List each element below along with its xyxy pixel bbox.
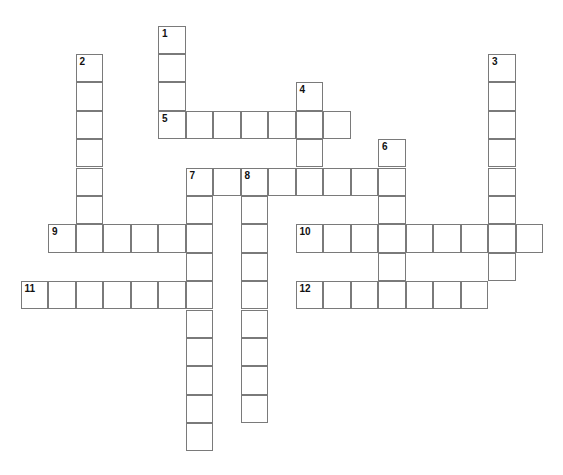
crossword-cell[interactable] <box>406 224 434 252</box>
crossword-cell[interactable] <box>461 281 489 309</box>
crossword-cell[interactable] <box>323 111 351 139</box>
crossword-cell[interactable]: 6 <box>378 139 406 167</box>
clue-number: 10 <box>300 227 311 237</box>
crossword-cell[interactable] <box>103 224 131 252</box>
crossword-cell[interactable] <box>296 139 324 167</box>
crossword-cell[interactable]: 2 <box>76 54 104 82</box>
crossword-cell[interactable] <box>241 310 269 338</box>
crossword-cell[interactable] <box>158 224 186 252</box>
crossword-cell[interactable] <box>186 111 214 139</box>
crossword-cell[interactable] <box>488 253 516 281</box>
crossword-cell[interactable] <box>76 139 104 167</box>
crossword-cell[interactable] <box>488 168 516 196</box>
crossword-cell[interactable]: 3 <box>488 54 516 82</box>
crossword-cell[interactable]: 11 <box>21 281 49 309</box>
clue-number: 9 <box>52 227 58 237</box>
crossword-cell[interactable] <box>323 281 351 309</box>
crossword-cell[interactable] <box>76 111 104 139</box>
clue-number: 8 <box>245 171 251 181</box>
crossword-cell[interactable] <box>241 366 269 394</box>
crossword-cell[interactable] <box>241 281 269 309</box>
crossword-cell[interactable] <box>488 196 516 224</box>
crossword-cell[interactable]: 9 <box>48 224 76 252</box>
crossword-grid: 152346789101112 <box>0 0 563 475</box>
crossword-cell[interactable] <box>76 82 104 110</box>
crossword-cell[interactable] <box>378 253 406 281</box>
clue-number: 2 <box>80 57 86 67</box>
crossword-cell[interactable] <box>406 281 434 309</box>
crossword-cell[interactable] <box>516 224 544 252</box>
crossword-cell[interactable] <box>433 281 461 309</box>
crossword-cell[interactable]: 1 <box>158 26 186 54</box>
crossword-cell[interactable] <box>488 111 516 139</box>
crossword-cell[interactable] <box>351 224 379 252</box>
crossword-cell[interactable]: 7 <box>186 168 214 196</box>
crossword-cell[interactable] <box>323 224 351 252</box>
crossword-cell[interactable] <box>296 168 324 196</box>
crossword-cell[interactable] <box>488 224 516 252</box>
crossword-cell[interactable] <box>488 82 516 110</box>
crossword-cell[interactable] <box>378 196 406 224</box>
crossword-cell[interactable] <box>241 111 269 139</box>
crossword-cell[interactable] <box>158 82 186 110</box>
clue-number: 11 <box>25 284 36 294</box>
crossword-cell[interactable] <box>213 111 241 139</box>
crossword-cell[interactable] <box>186 253 214 281</box>
crossword-cell[interactable] <box>103 281 131 309</box>
clue-number: 6 <box>382 142 388 152</box>
crossword-cell[interactable] <box>186 196 214 224</box>
crossword-cell[interactable] <box>131 281 159 309</box>
crossword-cell[interactable] <box>186 281 214 309</box>
crossword-cell[interactable] <box>323 168 351 196</box>
crossword-cell[interactable] <box>268 168 296 196</box>
crossword-cell[interactable] <box>158 54 186 82</box>
crossword-cell[interactable] <box>186 366 214 394</box>
clue-number: 4 <box>300 85 306 95</box>
clue-number: 3 <box>492 57 498 67</box>
crossword-cell[interactable]: 10 <box>296 224 324 252</box>
crossword-cell[interactable] <box>76 224 104 252</box>
crossword-cell[interactable] <box>186 338 214 366</box>
crossword-cell[interactable] <box>461 224 489 252</box>
crossword-cell[interactable] <box>186 310 214 338</box>
crossword-cell[interactable] <box>378 281 406 309</box>
crossword-cell[interactable] <box>48 281 76 309</box>
crossword-cell[interactable] <box>268 111 296 139</box>
crossword-cell[interactable] <box>76 196 104 224</box>
crossword-cell[interactable] <box>76 168 104 196</box>
crossword-cell[interactable] <box>186 395 214 423</box>
crossword-cell[interactable] <box>241 196 269 224</box>
crossword-cell[interactable] <box>186 224 214 252</box>
clue-number: 5 <box>162 114 168 124</box>
clue-number: 7 <box>190 171 196 181</box>
crossword-cell[interactable] <box>131 224 159 252</box>
crossword-cell[interactable] <box>158 281 186 309</box>
crossword-cell[interactable] <box>186 423 214 451</box>
crossword-cell[interactable]: 5 <box>158 111 186 139</box>
crossword-cell[interactable]: 4 <box>296 82 324 110</box>
crossword-cell[interactable] <box>213 168 241 196</box>
crossword-cell[interactable] <box>488 139 516 167</box>
crossword-cell[interactable] <box>241 224 269 252</box>
crossword-cell[interactable] <box>433 224 461 252</box>
crossword-cell[interactable] <box>241 253 269 281</box>
crossword-cell[interactable] <box>296 111 324 139</box>
clue-number: 1 <box>162 29 168 39</box>
crossword-cell[interactable] <box>351 281 379 309</box>
crossword-cell[interactable]: 8 <box>241 168 269 196</box>
crossword-cell[interactable]: 12 <box>296 281 324 309</box>
crossword-cell[interactable] <box>241 395 269 423</box>
crossword-cell[interactable] <box>241 338 269 366</box>
crossword-cell[interactable] <box>378 168 406 196</box>
clue-number: 12 <box>300 284 311 294</box>
crossword-cell[interactable] <box>378 224 406 252</box>
crossword-cell[interactable] <box>351 168 379 196</box>
crossword-cell[interactable] <box>76 281 104 309</box>
